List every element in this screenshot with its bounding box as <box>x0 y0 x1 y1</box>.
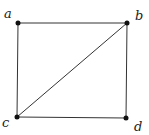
edge-c-d <box>17 117 126 118</box>
label-b: b <box>135 8 143 23</box>
label-a: a <box>4 6 12 21</box>
label-c: c <box>2 115 10 130</box>
edges <box>17 23 127 118</box>
graph-diagram: a b c d <box>0 0 149 135</box>
label-d: d <box>134 119 142 134</box>
node-b <box>125 21 130 26</box>
edge-a-c <box>17 23 18 117</box>
node-d <box>124 116 129 121</box>
node-a <box>16 21 21 26</box>
edge-b-d <box>126 23 127 118</box>
edge-c-b <box>17 23 127 117</box>
node-c <box>15 115 20 120</box>
